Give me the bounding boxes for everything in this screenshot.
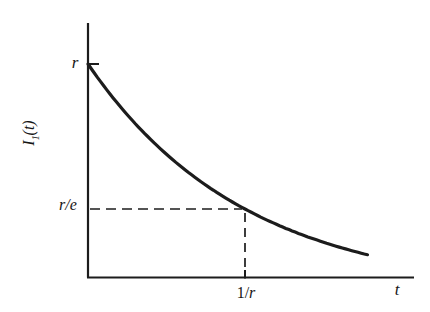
figure-decay-plot: r r/e I1(t) 1/r t (0, 0, 430, 312)
x-marker-numerator: 1/ (237, 284, 249, 301)
y-axis-label-main: I (20, 140, 37, 145)
y-axis-label-arg: (t) (20, 120, 37, 135)
y-axis-label: I1(t) (21, 120, 40, 145)
y-intercept-label: r (72, 54, 79, 71)
x-axis-label: t (395, 281, 400, 298)
decay-curve (88, 64, 368, 255)
plot-canvas (0, 0, 430, 312)
x-marker-label: 1/r (237, 285, 256, 301)
y-axis-label-subscript: 1 (30, 135, 41, 140)
y-marker-label: r/e (59, 197, 77, 213)
x-marker-variable: r (249, 284, 255, 301)
